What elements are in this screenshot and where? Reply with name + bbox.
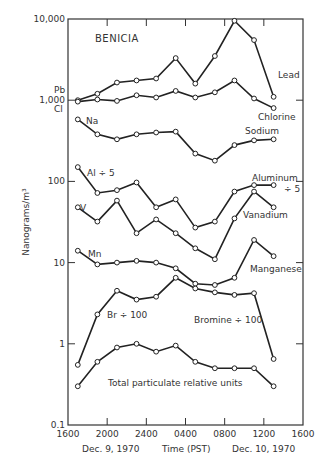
data-point <box>95 219 100 224</box>
data-point <box>95 359 100 364</box>
series-label: Al ÷ 5 <box>87 168 115 178</box>
data-point <box>271 183 276 188</box>
x-axis-right-date: Dec. 10, 1970 <box>232 444 295 454</box>
data-point <box>193 81 198 86</box>
data-point <box>193 225 198 230</box>
data-point <box>173 231 178 236</box>
data-point <box>115 260 120 265</box>
data-point <box>173 129 178 134</box>
data-point <box>271 137 276 142</box>
data-point <box>232 18 237 23</box>
data-point <box>252 96 257 101</box>
data-point <box>252 38 257 43</box>
data-point <box>212 283 217 288</box>
data-point <box>115 345 120 350</box>
data-point <box>134 231 139 236</box>
x-axis-label: Time (PST) <box>161 444 211 454</box>
data-point <box>115 198 120 203</box>
data-point <box>134 258 139 263</box>
series-label: Br ÷ 100 <box>107 310 148 320</box>
data-point <box>173 56 178 61</box>
data-point <box>173 343 178 348</box>
chart-title: BENICIA <box>95 33 139 44</box>
data-point <box>232 78 237 83</box>
data-point <box>271 94 276 99</box>
data-point <box>115 137 120 142</box>
data-point <box>95 191 100 196</box>
data-point <box>252 291 257 296</box>
data-point <box>154 294 159 299</box>
x-tick-label: 2000 <box>96 429 119 439</box>
chart: 0.11101001,00010,00016002000240004000800… <box>0 0 327 470</box>
x-tick-label: 1600 <box>292 429 315 439</box>
series-label: Mn <box>88 249 101 259</box>
data-point <box>75 99 80 104</box>
data-point <box>212 158 217 163</box>
data-point <box>115 188 120 193</box>
series-label: Vanadium <box>243 210 288 220</box>
data-point <box>134 93 139 98</box>
data-point <box>154 95 159 100</box>
data-point <box>115 80 120 85</box>
data-point <box>154 130 159 135</box>
series-label: Sodium <box>245 126 279 136</box>
x-axis-left-date: Dec. 9, 1970 <box>82 444 140 454</box>
data-point <box>95 97 100 102</box>
data-point <box>134 180 139 185</box>
data-point <box>134 297 139 302</box>
data-point <box>232 143 237 148</box>
data-point <box>271 384 276 389</box>
data-point <box>212 54 217 59</box>
data-point <box>252 238 257 243</box>
data-point <box>212 90 217 95</box>
data-point <box>212 290 217 295</box>
series-label: Bromine ÷ 100 <box>194 315 262 325</box>
data-point <box>252 138 257 143</box>
series-label: ÷ 5 <box>284 184 300 194</box>
series-label: Aluminum <box>252 173 298 183</box>
y-tick-label: 1 <box>59 339 65 349</box>
data-point <box>154 349 159 354</box>
data-point <box>134 341 139 346</box>
series-chlorine <box>75 78 276 110</box>
x-tick-label: 1600 <box>57 429 80 439</box>
data-point <box>134 78 139 83</box>
data-point <box>173 197 178 202</box>
data-point <box>252 189 257 194</box>
series-labels: PbLeadClChlorineNaSodiumAl ÷ 5Aluminum÷ … <box>54 70 302 388</box>
data-point <box>173 89 178 94</box>
series-label: Manganese <box>250 264 302 274</box>
data-point <box>154 260 159 265</box>
data-point <box>252 366 257 371</box>
data-point <box>75 384 80 389</box>
data-point <box>193 286 198 291</box>
data-point <box>252 183 257 188</box>
data-point <box>271 205 276 210</box>
data-point <box>75 117 80 122</box>
axis-ticks: 0.11101001,00010,00016002000240004000800… <box>34 14 315 439</box>
data-series <box>75 18 276 388</box>
x-tick-label: 2400 <box>135 429 158 439</box>
data-point <box>271 106 276 111</box>
data-point <box>232 293 237 298</box>
data-point <box>75 248 80 253</box>
data-point <box>271 254 276 259</box>
data-point <box>95 262 100 267</box>
data-point <box>173 275 178 280</box>
data-point <box>193 281 198 286</box>
data-point <box>212 257 217 262</box>
data-point <box>232 189 237 194</box>
data-point <box>212 366 217 371</box>
data-point <box>154 205 159 210</box>
data-point <box>75 165 80 170</box>
data-point <box>173 266 178 271</box>
data-point <box>115 288 120 293</box>
data-point <box>95 91 100 96</box>
data-point <box>95 132 100 137</box>
data-point <box>232 275 237 280</box>
data-point <box>212 219 217 224</box>
data-point <box>232 366 237 371</box>
series-label: Chlorine <box>258 112 296 122</box>
data-point <box>115 99 120 104</box>
data-point <box>154 76 159 81</box>
